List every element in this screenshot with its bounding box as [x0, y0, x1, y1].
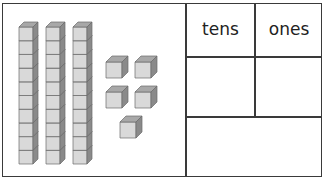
ones-cube — [106, 86, 128, 108]
rod-segment — [46, 150, 60, 164]
rod-segment — [19, 137, 33, 151]
tens-header: tens — [187, 19, 254, 39]
unit-cube — [120, 122, 136, 138]
rod-segment — [19, 27, 33, 41]
rod-segment — [46, 54, 60, 68]
ones-cube — [120, 116, 142, 138]
rod-segment — [19, 41, 33, 55]
rod-segment — [19, 150, 33, 164]
rod-segment — [19, 123, 33, 137]
rod-segment — [73, 82, 87, 96]
ones-answer-cell[interactable] — [256, 58, 322, 116]
tens-answer-cell[interactable] — [187, 58, 254, 116]
rod-segment — [46, 27, 60, 41]
rod-segment — [19, 109, 33, 123]
rod-segment — [73, 41, 87, 55]
rod-segment — [73, 68, 87, 82]
rod-segment — [73, 137, 87, 151]
rod-segment — [73, 27, 87, 41]
rod-segment — [73, 109, 87, 123]
ones-cube — [106, 56, 128, 78]
rod-segment — [46, 109, 60, 123]
rod-segment — [46, 68, 60, 82]
tens-rod — [19, 22, 38, 164]
rod-segment — [46, 137, 60, 151]
tens-rod — [46, 22, 65, 164]
unit-cube — [106, 62, 122, 78]
ones-cube — [135, 86, 157, 108]
rod-segment — [73, 150, 87, 164]
rod-segment — [46, 123, 60, 137]
rod-segment — [46, 96, 60, 110]
unit-cube — [106, 92, 122, 108]
rod-segment — [73, 123, 87, 137]
rod-segment — [73, 54, 87, 68]
rod-segment — [19, 96, 33, 110]
rod-segment — [19, 68, 33, 82]
unit-cube — [135, 92, 151, 108]
rod-segment — [19, 54, 33, 68]
total-answer-cell[interactable] — [187, 118, 322, 176]
rod-segment — [19, 82, 33, 96]
tens-rod — [73, 22, 92, 164]
ones-cube — [135, 56, 157, 78]
rod-segment — [73, 96, 87, 110]
ones-header: ones — [256, 19, 322, 39]
rod-segment — [46, 82, 60, 96]
rod-segment — [46, 41, 60, 55]
unit-cube — [135, 62, 151, 78]
